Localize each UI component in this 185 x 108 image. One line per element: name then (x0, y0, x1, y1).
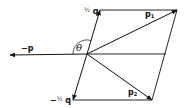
label-theta: θ (76, 43, 82, 53)
vector-p2 (87, 54, 152, 100)
label-half-q: ½ q (84, 7, 98, 16)
vector-p1 (87, 10, 177, 54)
label-p2: p2 (128, 89, 137, 97)
q-symbol: q (93, 7, 99, 16)
theta-symbol: θ (76, 42, 82, 53)
vector-half-q (87, 10, 100, 54)
label-p1: p1 (145, 11, 154, 19)
label-neg-p: −p (21, 45, 33, 53)
half-fraction: ½ (57, 95, 63, 102)
half-fraction: ½ (84, 6, 90, 13)
subscript-1: 1 (151, 13, 154, 19)
q-symbol: q (65, 96, 71, 105)
right-edge (152, 10, 177, 100)
diagram-lines (0, 0, 185, 108)
subscript-2: 2 (134, 91, 137, 97)
label-neg-half-q: −½ q (50, 96, 71, 105)
neg-p-text: −p (21, 44, 33, 53)
minus-sign: − (50, 96, 57, 105)
vector-neg-half-q (73, 54, 87, 100)
vector-diagram: ½ q p1 −p θ −½ q p2 (0, 0, 185, 108)
vector-neg-p (10, 54, 87, 55)
